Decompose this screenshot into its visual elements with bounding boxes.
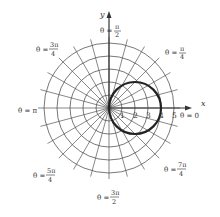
grid-radial-line (40, 108, 109, 126)
svg-text:7π: 7π (178, 161, 187, 169)
grid-radial-line (109, 108, 145, 169)
grid-radial-line (109, 90, 178, 108)
grid-radial-line (74, 47, 110, 108)
svg-text:4: 4 (51, 50, 55, 58)
svg-text:4: 4 (179, 170, 183, 178)
svg-text:π: π (180, 45, 185, 53)
svg-text:3π: 3π (111, 189, 120, 197)
grid-radial-line (48, 73, 109, 109)
angle-label-pi: θ = π (18, 107, 38, 115)
y-axis-arrow-icon (107, 11, 112, 18)
svg-text:2: 2 (112, 198, 116, 206)
svg-text:4: 4 (180, 53, 184, 61)
svg-text:3π: 3π (50, 41, 59, 49)
tick-3: 3 (146, 111, 151, 120)
grid-radial-line (109, 47, 145, 108)
angle-label-3pi-2: θ = (97, 194, 109, 202)
radial-tick-labels: 1 2 3 4 5 (120, 111, 177, 120)
grid-radial-line (48, 108, 109, 144)
polar-plot: x y 1 2 3 4 5 θ = 0 θ = π 2 θ = π 4 θ = … (0, 0, 220, 217)
tick-1: 1 (120, 111, 125, 120)
polar-grid-svg: x y 1 2 3 4 5 θ = 0 θ = π 2 θ = π 4 θ = … (0, 0, 220, 217)
tick-2: 2 (133, 111, 138, 120)
svg-text:5π: 5π (47, 167, 56, 175)
grid-radial-line (91, 39, 109, 108)
angle-label-0: θ = 0 (180, 112, 199, 120)
tick-5: 5 (172, 111, 177, 120)
svg-text:4: 4 (48, 176, 52, 184)
y-axis-label: y (99, 10, 105, 19)
grid-radial-line (91, 108, 109, 177)
svg-text:π: π (115, 23, 120, 31)
angle-label-pi-4: θ = (165, 49, 177, 57)
angle-label-5pi-4: θ = (33, 172, 45, 180)
angle-label-7pi-4: θ = (164, 166, 176, 174)
x-axis-arrow-icon (185, 106, 192, 111)
tick-4: 4 (159, 111, 164, 120)
grid-radial-line (74, 108, 110, 169)
svg-text:2: 2 (115, 31, 119, 39)
angle-label-pi-2: θ = (100, 27, 112, 35)
x-axis-label: x (201, 99, 206, 108)
angle-label-3pi-4: θ = (36, 46, 48, 54)
grid-radial-line (40, 90, 109, 108)
